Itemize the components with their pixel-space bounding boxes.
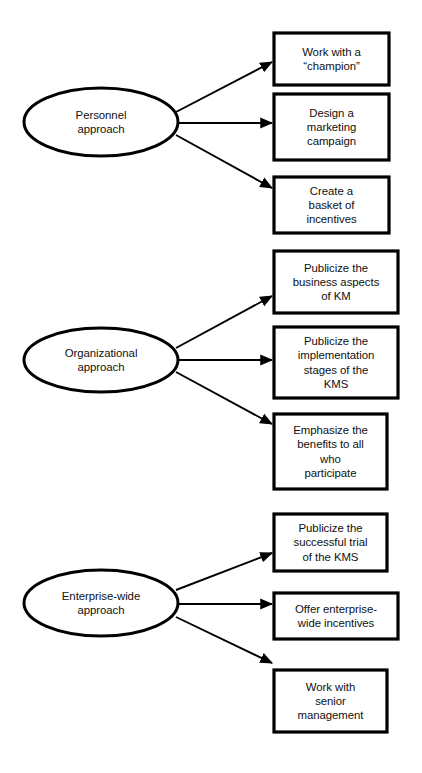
shape-publicize-business-aspects-of-km (274, 251, 398, 313)
shape-design-a-marketing-campaign (274, 94, 389, 160)
shape-emphasize-benefits-to-all-who-participate (274, 414, 387, 489)
shape-organizational-approach (24, 328, 178, 392)
diagram-canvas: Personnel approach Work with a “champion… (0, 0, 422, 773)
shape-enterprise-wide-approach (24, 570, 178, 636)
diagram-vector-layer (0, 0, 422, 773)
arrow-enterprise-to-successful-trial (176, 553, 272, 590)
shape-offer-enterprise-wide-incentives (274, 593, 398, 639)
shape-publicize-implementation-stages-of-kms (274, 327, 398, 398)
arrow-organizational-to-benefits (176, 372, 272, 424)
arrow-enterprise-to-senior-management (176, 617, 272, 663)
shape-work-with-senior-management (274, 670, 387, 732)
shape-personnel-approach (24, 88, 178, 156)
arrow-organizational-to-business-aspects (176, 296, 272, 348)
shape-publicize-successful-trial-of-kms (274, 514, 387, 571)
arrow-personnel-to-champion (176, 62, 272, 112)
arrow-personnel-to-incentives (176, 135, 272, 188)
shape-work-with-a-champion (274, 33, 389, 85)
shape-create-a-basket-of-incentives (274, 177, 389, 233)
